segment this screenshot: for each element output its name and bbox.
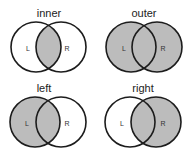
venn-panel-inner: inner L R	[11, 7, 86, 72]
right-set-label: R	[64, 45, 69, 52]
left-set-label: L	[26, 45, 30, 52]
left-set-label: L	[122, 45, 126, 52]
left-set-label: L	[25, 120, 29, 127]
venn-panel-outer: outer L R	[106, 7, 182, 72]
panel-title: left	[37, 82, 52, 94]
panel-title: outer	[131, 7, 156, 19]
venn-panel-left: left L R	[10, 82, 86, 147]
left-set-label: L	[120, 120, 124, 127]
panel-title: right	[132, 82, 153, 94]
panel-title: inner	[37, 7, 62, 19]
right-set-label: R	[160, 120, 165, 127]
right-set-label: R	[160, 45, 165, 52]
venn-join-diagram: inner L R outer L R left L R right L R	[0, 0, 192, 157]
right-set-label: R	[64, 120, 69, 127]
venn-panel-right: right L R	[105, 82, 181, 147]
